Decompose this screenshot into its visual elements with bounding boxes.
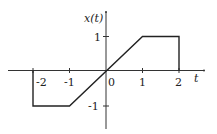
ytick-label-neg1: -1 (88, 100, 99, 113)
tick-label-1: 1 (139, 76, 146, 89)
y-axis-label: x(t) (84, 12, 103, 25)
x-axis-label: t (194, 72, 199, 85)
signal-plot: -2 -1 0 1 2 t 1 -1 x(t) (0, 0, 217, 134)
x-axis-arrow (203, 70, 205, 72)
ytick-label-1: 1 (94, 31, 101, 44)
tick-label-2: 2 (175, 76, 182, 89)
tick-label-neg1: -1 (64, 76, 75, 89)
y-axis-arrow (105, 11, 107, 13)
tick-label-0: 0 (108, 76, 115, 89)
tick-label-neg2: -2 (36, 76, 47, 89)
